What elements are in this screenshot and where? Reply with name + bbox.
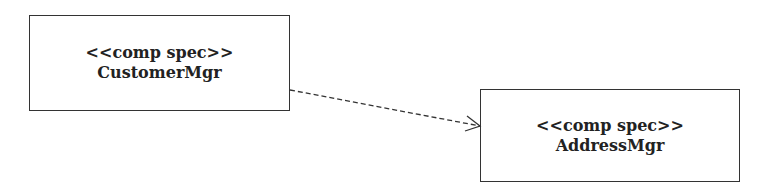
dashed-dependency-line: [290, 90, 480, 126]
dependency-connector[interactable]: [0, 0, 758, 194]
